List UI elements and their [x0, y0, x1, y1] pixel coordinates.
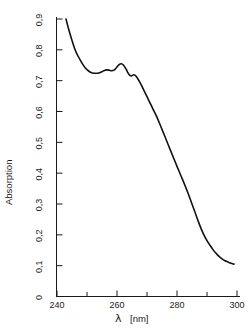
y-axis-title: Absorption: [3, 160, 14, 205]
x-axis-title-unit: [nm]: [130, 313, 148, 324]
y-tick-label: 0,1: [34, 260, 44, 273]
y-tick-label: 0,3: [34, 199, 44, 212]
absorption-spectrum-chart: 00,10,20,30,40,50,60,70,80,9 24026028030…: [0, 0, 249, 333]
y-tick-label: 0: [34, 295, 44, 300]
chart-canvas: 00,10,20,30,40,50,60,70,80,9 24026028030…: [0, 0, 249, 333]
y-tick-label: 0,4: [34, 168, 44, 181]
x-axis-title-symbol: λ: [115, 312, 122, 325]
x-tick-label: 240: [49, 300, 64, 310]
x-tick-label: 300: [229, 300, 244, 310]
y-tick-label: 0,9: [34, 14, 44, 27]
y-axis-ticks: [57, 19, 63, 297]
y-tick-label: 0,7: [34, 75, 44, 88]
x-axis-tick-labels: 240260280300: [49, 300, 244, 310]
x-tick-label: 260: [109, 300, 124, 310]
x-tick-label: 280: [169, 300, 184, 310]
y-tick-label: 0,6: [34, 106, 44, 119]
y-axis-tick-labels: 00,10,20,30,40,50,60,70,80,9: [34, 14, 44, 300]
y-tick-label: 0,2: [34, 230, 44, 243]
x-axis-minor-ticks: [87, 292, 207, 297]
absorption-curve: [66, 19, 234, 264]
y-tick-label: 0,8: [34, 45, 44, 58]
y-tick-label: 0,5: [34, 137, 44, 150]
